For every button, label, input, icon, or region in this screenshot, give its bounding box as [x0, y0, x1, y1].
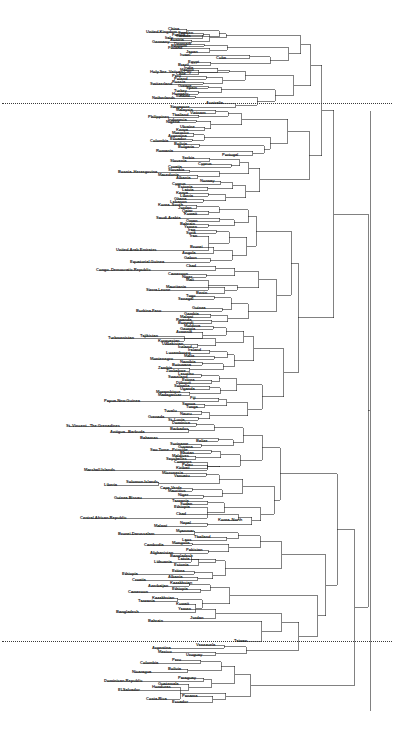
leaf-label: Nauru: [180, 412, 192, 416]
leaf-label: Guinea.Bissau: [114, 496, 142, 500]
leaf-label: Paraguay: [178, 676, 196, 680]
leaf-label: Bahamas: [140, 436, 158, 440]
leaf-label: Chad: [186, 264, 196, 268]
leaf-label: Malawi: [154, 524, 167, 528]
leaf-label: Malta: [184, 354, 194, 358]
leaf-label: Central.African.Republic: [80, 516, 126, 520]
leaf-label: Romania: [156, 149, 173, 153]
leaf-label: Grenada: [148, 415, 164, 419]
leaf-label: Tajikistan: [140, 334, 158, 338]
leaf-label: Albania: [168, 575, 182, 579]
leaf-label: Niger: [178, 493, 188, 497]
leaf-label: Antigua...Barbuda: [110, 430, 144, 434]
leaf-label: Finland: [168, 46, 182, 50]
leaf-label: Croatia: [132, 578, 146, 582]
leaf-label: Ecuador: [172, 700, 188, 704]
leaf-label: Mongolia: [172, 541, 190, 545]
leaf-label: Gabon: [184, 256, 197, 260]
leaf-label: Saudi.Arabia: [156, 216, 180, 220]
leaf-label: Dominica: [172, 421, 190, 425]
leaf-label: Cameroon: [128, 590, 148, 594]
leaf-label: Guinea: [192, 306, 206, 310]
leaf-label: Belize: [196, 439, 208, 443]
leaf-label: Tuvalu: [164, 409, 177, 413]
leaf-label: Slovenia: [170, 159, 186, 163]
leaf-label: Kazakhstan: [152, 596, 174, 600]
leaf-label: Cuba: [216, 56, 226, 60]
leaf-label: Lithuania: [154, 560, 172, 564]
leaf-label: Senegal: [178, 297, 193, 301]
leaf-label: Venezuela: [196, 643, 215, 647]
leaf-label: Costa.Rica: [146, 697, 167, 701]
leaf-label: Fiji: [190, 396, 196, 400]
leaf-label: Norway: [200, 179, 215, 183]
leaf-label: Madagascar: [158, 393, 181, 397]
leaf-label: Colombia: [140, 661, 158, 665]
leaf-label: Jordan: [190, 616, 203, 620]
leaf-label: Nepal: [180, 521, 191, 525]
leaf-label: Marshall.Islands: [84, 468, 115, 472]
leaf-label: Ethiopia: [174, 505, 190, 509]
leaf-label: Ethiopia: [122, 572, 138, 576]
leaf-label: Eritrea: [172, 569, 185, 573]
dendrogram-figure: United.KingdomChinaFranceItalySwedenCana…: [0, 0, 396, 737]
leaf-label: Azerbaijan: [148, 584, 168, 588]
leaf-label: Chad: [176, 512, 186, 516]
leaf-label: Iceland: [176, 94, 190, 98]
leaf-label: Switzerland: [150, 82, 172, 86]
leaf-label: Bolivia: [168, 667, 181, 671]
leaf-label: Colombia: [150, 139, 168, 143]
leaf-label: Barbados: [170, 427, 189, 431]
leaf-label: Mali: [186, 278, 194, 282]
leaf-label: Yemen: [178, 607, 191, 611]
leaf-label: Kazakhstan: [170, 581, 192, 585]
leaf-label: Bosnia..Herzegovina: [118, 170, 157, 174]
leaf-label: Dominican.Republic: [104, 679, 142, 683]
leaf-label: Estonia: [174, 563, 188, 567]
leaf-label: Liberia: [104, 483, 117, 487]
leaf-label: Taiwan: [234, 639, 247, 643]
leaf-label: Solomon.Islands: [126, 480, 158, 484]
leaf-label: Mauritania: [166, 285, 186, 289]
leaf-label: Ethiopia: [172, 587, 188, 591]
leaf-label: Brunei.Darussalam: [118, 532, 154, 536]
leaf-label: Mexico: [158, 650, 172, 654]
leaf-label: Botswana: [172, 363, 191, 367]
leaf-label: Vanuatu: [174, 474, 190, 478]
leaf-label: Tanzania: [138, 599, 155, 603]
leaf-label: Thailand: [194, 535, 210, 539]
leaf-label: Turkmenistan: [108, 336, 134, 340]
leaf-label: Israel: [180, 53, 190, 57]
leaf-label: Armenia: [176, 330, 192, 334]
leaf-label: Korea..North: [218, 518, 242, 522]
leaf-label: Cyprus: [198, 162, 212, 166]
leaf-label: St..Vincent...The.Grenadines: [66, 424, 120, 428]
leaf-label: Burkina.Faso: [136, 309, 161, 313]
leaf-label: Albania: [176, 176, 190, 180]
leaf-label: Vietnam: [190, 111, 206, 115]
leaf-label: Uruguay: [186, 653, 202, 657]
leaf-label: Montenegro: [150, 357, 173, 361]
leaf-label: Peru: [172, 658, 181, 662]
leaf-label: Bangladesh: [116, 610, 139, 614]
leaf-label: Congo..Democratic.Republic: [96, 268, 151, 272]
leaf-label: United.Arab.Emirates: [116, 248, 157, 252]
leaf-label: Iran: [190, 234, 197, 238]
leaf-label: Uganda: [180, 387, 195, 391]
leaf-label: Tonga: [186, 405, 198, 409]
leaf-label: Pakistan: [186, 548, 202, 552]
leaf-label: Benin: [196, 291, 207, 295]
leaf-label: Latvia: [178, 557, 190, 561]
leaf-label: El.Salvador: [118, 688, 140, 692]
leaf-label: Nicaragua: [132, 670, 151, 674]
leaf-label: Kuwait: [184, 212, 197, 216]
leaf-label: Nigeria: [166, 120, 180, 124]
leaf-label: Equatorial.Guinea: [130, 260, 164, 264]
leaf-label: Panama: [182, 694, 197, 698]
leaf-label: Bulgaria: [178, 145, 194, 149]
leaf-label: Egypt: [188, 60, 199, 64]
leaf-label: Australia: [206, 101, 223, 105]
leaf-label: Brunei: [190, 245, 203, 249]
leaf-label: Cambodia: [144, 543, 163, 547]
leaf-label: Germany: [152, 40, 169, 44]
